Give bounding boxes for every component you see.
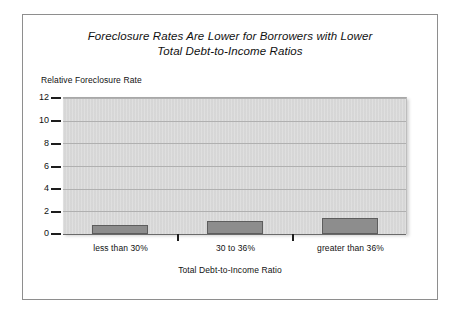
x-category-label-2: greater than 36% — [293, 243, 408, 253]
y-tick-mark-10 — [51, 120, 61, 122]
x-axis-title: Total Debt-to-Income Ratio — [23, 265, 437, 275]
y-tick-label-0: 0 — [27, 228, 49, 238]
chart-title-line-1: Foreclosure Rates Are Lower for Borrower… — [23, 29, 437, 44]
y-axis-title: Relative Foreclosure Rate — [41, 75, 142, 85]
x-tick-mark-1 — [177, 234, 179, 241]
y-tick-mark-0 — [51, 233, 61, 235]
gridline-8 — [63, 143, 406, 144]
figure-frame: Foreclosure Rates Are Lower for Borrower… — [22, 14, 438, 300]
y-tick-label-2: 2 — [27, 206, 49, 216]
gridline-10 — [63, 121, 406, 122]
gridline-6 — [63, 166, 406, 167]
gridline-2 — [63, 211, 406, 212]
y-tick-label-10: 10 — [27, 115, 49, 125]
y-tick-mark-6 — [51, 166, 61, 168]
y-tick-mark-4 — [51, 188, 61, 190]
bar-less-than-30 — [92, 225, 148, 234]
y-tick-label-6: 6 — [27, 161, 49, 171]
y-tick-label-4: 4 — [27, 183, 49, 193]
y-tick-mark-2 — [51, 211, 61, 213]
gridline-12 — [63, 98, 406, 99]
y-tick-mark-12 — [51, 97, 61, 99]
x-tick-mark-2 — [292, 234, 294, 241]
bar-30-to-36 — [207, 221, 263, 234]
x-category-label-1: 30 to 36% — [178, 243, 293, 253]
y-tick-label-12: 12 — [27, 92, 49, 102]
gridline-0 — [63, 234, 406, 235]
gridline-4 — [63, 189, 406, 190]
y-tick-label-8: 8 — [27, 138, 49, 148]
chart-title: Foreclosure Rates Are Lower for Borrower… — [23, 29, 437, 59]
chart-title-line-2: Total Debt-to-Income Ratios — [23, 44, 437, 59]
bar-greater-than-36 — [322, 218, 378, 234]
y-tick-mark-8 — [51, 143, 61, 145]
plot-area — [63, 97, 407, 234]
x-category-label-0: less than 30% — [63, 243, 178, 253]
